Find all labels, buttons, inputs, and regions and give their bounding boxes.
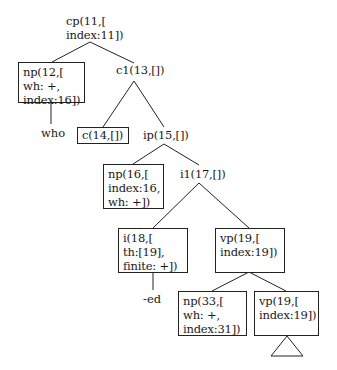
node-np16: np(16,[ index:16, wh: +]) <box>103 164 164 209</box>
node-np33: np(33,[ wh: +, index:31]) <box>178 291 247 336</box>
node-i18: i(18,[ th:[19], finite: +]) <box>118 228 188 273</box>
node-vp19b: vp(19,[ index:19]) <box>254 291 319 336</box>
leaf-who: who <box>41 126 65 140</box>
node-ip15: ip(15,[]) <box>143 128 188 142</box>
leaf-ed: -ed <box>143 292 161 306</box>
node-vp19a: vp(19,[ index:19]) <box>215 228 285 273</box>
node-i1-17: i1(17,[]) <box>180 167 225 181</box>
node-c14: c(14,[]) <box>77 127 129 144</box>
node-np12: np(12,[ wh: +, index:16]) <box>18 62 85 103</box>
node-c1-13: c1(13,[]) <box>116 63 164 77</box>
subtree-triangle-icon <box>271 336 303 356</box>
node-cp11: cp(11,[ index:11]) <box>66 14 123 42</box>
